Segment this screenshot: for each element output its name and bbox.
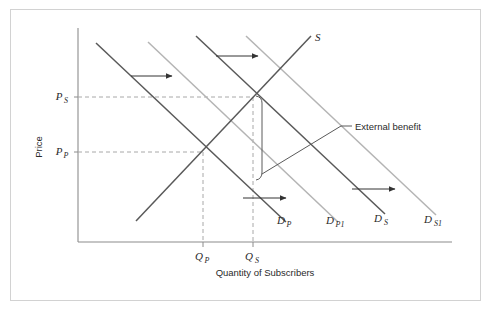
curve-supply [136,36,311,221]
supply-curve-group [136,36,311,221]
supply-demand-diagram: Price Quantity of Subscribers P S P P Q … [0,0,492,312]
quantity-tick-label-qp: Q P [195,250,210,265]
quantity-label-qp-main: Q [195,250,203,262]
curve-label-ds-main: D [373,212,382,224]
price-tick-label-ps: P S [55,90,68,105]
price-label-ps-main: P [55,90,63,102]
curve-demand-private [96,43,286,222]
curve-label-dp-main: D [276,214,285,226]
quantity-label-qs-sub: S [255,256,259,265]
x-axis-label: Quantity of Subscribers [216,267,315,278]
curve-label-demand-social-1: D S1 [423,213,442,228]
price-label-pp-sub: P [63,151,69,160]
curve-label-dp-sub: P [286,220,292,229]
curve-label-demand-private: D P [276,214,292,229]
figure-canvas: Price Quantity of Subscribers P S P P Q … [0,0,492,312]
curve-label-demand-social: D S [373,212,388,227]
quantity-label-qs-main: Q [245,250,253,262]
price-label-ps-sub: S [64,96,68,105]
price-label-pp-main: P [55,145,63,157]
price-tick-label-pp: P P [55,145,69,160]
curve-label-supply: S [315,31,321,43]
curve-label-demand-private-1: D P1 [325,214,344,229]
curve-label-dp1-sub: P1 [335,220,345,229]
y-axis-label: Price [33,136,44,158]
external-benefit-leader [262,126,341,174]
curve-label-ds-sub: S [384,218,388,227]
curve-demand-private-1 [148,42,338,222]
curve-label-ds1-sub: S1 [434,219,442,228]
external-benefit-bracket [256,96,262,180]
axis-group [74,28,452,247]
guide-lines [78,97,253,242]
quantity-label-qp-sub: P [204,256,210,265]
curve-label-dp1-main: D [325,214,334,226]
external-benefit-label: External benefit [355,121,421,132]
curve-label-ds1-main: D [423,213,432,225]
quantity-tick-label-qs: Q S [245,250,259,265]
